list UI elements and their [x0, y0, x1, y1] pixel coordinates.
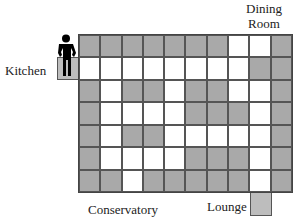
grid-cell: [122, 147, 143, 169]
grid-cell: [249, 102, 270, 124]
grid-cell: [185, 80, 206, 102]
grid-cell: [271, 170, 292, 192]
grid-cell: [100, 125, 121, 147]
grid-cell: [79, 80, 100, 102]
dining-room-label-line1: Dining: [246, 2, 282, 16]
grid-cell: [271, 35, 292, 57]
grid-cell: [143, 147, 164, 169]
grid-cell: [271, 102, 292, 124]
grid-cell: [143, 170, 164, 192]
grid-cell: [249, 125, 270, 147]
kitchen-label: Kitchen: [5, 64, 46, 78]
grid-cell: [143, 125, 164, 147]
grid-cell: [164, 125, 185, 147]
grid-cell: [122, 35, 143, 57]
grid-cell: [122, 57, 143, 79]
person-icon: [54, 34, 78, 80]
conservatory-label: Conservatory: [88, 203, 158, 217]
lounge-entry-cell: [250, 192, 272, 216]
grid-cell: [164, 35, 185, 57]
grid-cell: [228, 147, 249, 169]
grid-cell: [185, 57, 206, 79]
grid-cell: [122, 170, 143, 192]
grid-cell: [100, 80, 121, 102]
dining-room-label-line2: Room: [248, 17, 280, 31]
grid-cell: [249, 35, 270, 57]
grid-cell: [143, 80, 164, 102]
grid-cell: [100, 102, 121, 124]
grid-cell: [164, 170, 185, 192]
grid-cell: [79, 102, 100, 124]
grid-cell: [100, 147, 121, 169]
grid-cell: [185, 170, 206, 192]
grid-cell: [207, 147, 228, 169]
grid-cell: [228, 57, 249, 79]
grid-cell: [164, 57, 185, 79]
grid-cell: [100, 170, 121, 192]
grid-cell: [207, 102, 228, 124]
grid-cell: [207, 125, 228, 147]
grid-cell: [164, 80, 185, 102]
grid-cell: [228, 170, 249, 192]
grid-cell: [100, 35, 121, 57]
grid-cell: [79, 125, 100, 147]
grid-cell: [249, 80, 270, 102]
grid-cell: [228, 125, 249, 147]
grid-cell: [249, 57, 270, 79]
grid-cell: [143, 57, 164, 79]
grid-cell: [207, 35, 228, 57]
grid-cell: [249, 170, 270, 192]
grid-cell: [271, 125, 292, 147]
grid-cell: [122, 102, 143, 124]
grid-cell: [79, 57, 100, 79]
grid-cell: [143, 102, 164, 124]
grid-cell: [271, 80, 292, 102]
grid-cell: [143, 35, 164, 57]
grid-cell: [164, 102, 185, 124]
grid-cell: [122, 125, 143, 147]
grid-cell: [228, 80, 249, 102]
board-grid: [78, 34, 293, 193]
grid-cell: [271, 147, 292, 169]
grid-cell: [79, 35, 100, 57]
grid-cell: [207, 57, 228, 79]
grid-cell: [228, 35, 249, 57]
grid-cell: [185, 35, 206, 57]
lounge-label: Lounge: [207, 200, 247, 214]
grid-cell: [79, 147, 100, 169]
grid-cell: [271, 57, 292, 79]
grid-cell: [79, 170, 100, 192]
grid-cell: [185, 125, 206, 147]
grid-cell: [122, 80, 143, 102]
grid-cell: [228, 102, 249, 124]
grid-cell: [185, 102, 206, 124]
grid-cell: [207, 170, 228, 192]
grid-cell: [164, 147, 185, 169]
grid-cell: [207, 80, 228, 102]
grid-cell: [100, 57, 121, 79]
grid-cell: [185, 147, 206, 169]
grid-cell: [249, 147, 270, 169]
